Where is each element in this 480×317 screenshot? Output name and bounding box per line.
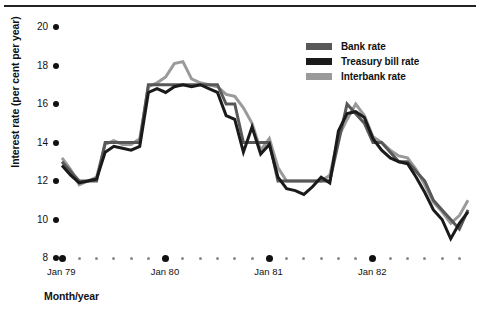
legend-item[interactable]: Interbank rate xyxy=(306,70,419,83)
legend-item-label: Treasury bill rate xyxy=(341,56,419,67)
chart-legend: Bank rateTreasury bill rateInterbank rat… xyxy=(306,40,419,85)
figure-container: Interest rate (per cent per year) 810121… xyxy=(0,0,480,317)
legend-item-label: Bank rate xyxy=(341,41,386,52)
legend-swatch-icon xyxy=(306,73,332,80)
legend-item[interactable]: Treasury bill rate xyxy=(306,55,419,68)
legend-swatch-icon xyxy=(306,43,332,50)
legend-swatch-icon xyxy=(306,58,332,65)
legend-item[interactable]: Bank rate xyxy=(306,40,419,53)
x-axis-title: Month/year xyxy=(44,290,99,302)
legend-item-label: Interbank rate xyxy=(341,71,406,82)
